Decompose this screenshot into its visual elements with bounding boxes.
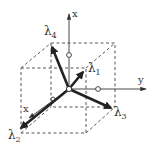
lambda3-label: λ3	[114, 105, 127, 121]
diagonal-axis-label: x	[23, 103, 29, 114]
origin-marker	[66, 86, 71, 91]
lambda1-label: λ1	[88, 61, 101, 77]
lambda1-arrow	[69, 72, 83, 89]
lambda2-label: λ2	[8, 128, 21, 144]
cube-edge	[21, 43, 51, 68]
horizontal-axis-label: y	[137, 74, 144, 85]
horizontal-axis-marker	[96, 87, 101, 92]
eigenvector-cube-diagram: x y x λ1 λ2 λ3 λ4	[0, 0, 160, 155]
vertical-axis-label: x	[72, 8, 78, 19]
vertical-axis-marker	[67, 53, 72, 58]
lambda3-arrow	[69, 89, 111, 108]
cube-edge	[86, 107, 115, 133]
lambda4-label: λ4	[44, 24, 57, 40]
